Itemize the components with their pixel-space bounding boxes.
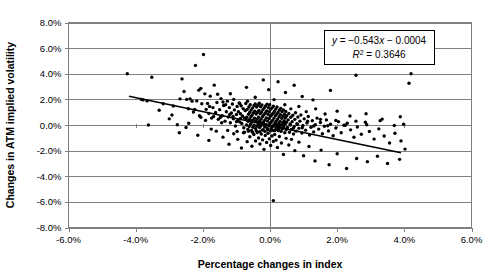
data-point bbox=[226, 99, 229, 102]
data-point bbox=[325, 118, 328, 121]
data-point bbox=[204, 108, 207, 111]
data-point bbox=[368, 130, 371, 133]
r-squared-symbol: R bbox=[352, 49, 359, 60]
x-tick-label-2: -2.0% bbox=[190, 234, 215, 245]
equation-intercept: − 0.0004 bbox=[384, 35, 426, 46]
data-point bbox=[198, 114, 201, 117]
data-point bbox=[293, 149, 296, 152]
data-point bbox=[319, 121, 322, 124]
data-point bbox=[299, 113, 302, 116]
data-point bbox=[288, 123, 291, 126]
data-point bbox=[224, 103, 227, 106]
x-axis-title: Percentage changes in index bbox=[198, 258, 343, 270]
data-point bbox=[238, 102, 241, 105]
data-point bbox=[212, 115, 215, 118]
data-point bbox=[233, 108, 236, 111]
data-point bbox=[282, 153, 285, 156]
y-tick-label-3: 2.0% bbox=[40, 94, 62, 105]
data-point bbox=[286, 118, 289, 121]
data-point bbox=[297, 105, 300, 108]
data-point bbox=[327, 163, 330, 166]
data-point bbox=[345, 167, 348, 170]
x-tick-label-1: -4.0% bbox=[123, 234, 148, 245]
data-point bbox=[264, 134, 267, 137]
data-point bbox=[245, 140, 248, 143]
y-tick-label-6: -4.0% bbox=[37, 171, 62, 182]
data-point bbox=[317, 127, 320, 130]
data-point bbox=[354, 119, 357, 122]
data-point bbox=[335, 109, 338, 112]
data-point bbox=[250, 145, 253, 148]
data-point bbox=[219, 116, 222, 119]
data-point bbox=[226, 129, 229, 132]
data-point bbox=[220, 121, 223, 124]
y-tick-label-0: 8.0% bbox=[40, 17, 62, 28]
data-point bbox=[289, 107, 292, 110]
data-point bbox=[202, 53, 205, 56]
data-point bbox=[235, 120, 238, 123]
data-point bbox=[180, 77, 183, 80]
equation-annotation-box: y = −0.543x − 0.0004 R2 = 0.3646 bbox=[324, 30, 434, 64]
data-point bbox=[301, 126, 304, 129]
data-point bbox=[382, 134, 385, 137]
data-point bbox=[229, 92, 232, 95]
data-point bbox=[292, 132, 295, 135]
data-point bbox=[303, 117, 306, 120]
data-point bbox=[380, 117, 383, 120]
data-point bbox=[305, 110, 308, 113]
data-point bbox=[242, 126, 245, 129]
data-point bbox=[319, 118, 322, 121]
data-point bbox=[272, 105, 275, 108]
data-point bbox=[272, 98, 275, 101]
data-point bbox=[245, 86, 248, 89]
data-point bbox=[240, 122, 243, 125]
y-tick-label-8: -8.0% bbox=[37, 222, 62, 233]
data-point bbox=[301, 95, 304, 98]
data-point bbox=[272, 199, 275, 202]
data-point bbox=[242, 131, 245, 134]
data-point bbox=[287, 143, 290, 146]
data-point bbox=[236, 138, 239, 141]
data-point bbox=[296, 115, 299, 118]
data-point bbox=[334, 126, 337, 129]
data-point bbox=[288, 130, 291, 133]
data-point bbox=[213, 83, 216, 86]
data-point bbox=[293, 118, 296, 121]
data-point bbox=[168, 117, 171, 120]
data-point bbox=[190, 99, 193, 102]
data-point bbox=[228, 113, 231, 116]
data-point bbox=[273, 133, 276, 136]
data-point bbox=[194, 64, 197, 67]
data-point bbox=[302, 154, 305, 157]
data-point bbox=[393, 132, 396, 135]
r-squared-value: = 0.3646 bbox=[364, 49, 406, 60]
data-point bbox=[200, 102, 203, 105]
y-tick-label-5: -2.0% bbox=[37, 145, 62, 156]
data-point bbox=[218, 108, 221, 111]
data-point bbox=[254, 96, 257, 99]
data-point bbox=[398, 158, 401, 161]
data-point bbox=[248, 103, 251, 106]
data-point bbox=[247, 129, 250, 132]
data-point bbox=[203, 92, 206, 95]
data-point bbox=[176, 123, 179, 126]
data-point bbox=[306, 119, 309, 122]
data-point bbox=[311, 119, 314, 122]
data-point bbox=[393, 124, 396, 127]
data-point bbox=[364, 112, 367, 115]
data-point bbox=[147, 123, 150, 126]
data-point bbox=[284, 110, 287, 113]
data-point bbox=[292, 126, 295, 129]
data-point bbox=[251, 130, 254, 133]
data-point bbox=[399, 115, 402, 118]
data-point bbox=[290, 138, 293, 141]
data-point bbox=[402, 123, 405, 126]
data-point bbox=[240, 146, 243, 149]
x-tick-label-0: -6.0% bbox=[56, 234, 81, 245]
data-point bbox=[340, 131, 343, 134]
data-point bbox=[274, 138, 277, 141]
data-point bbox=[291, 114, 294, 117]
data-point bbox=[184, 126, 187, 129]
scatter-points bbox=[126, 53, 413, 202]
data-point bbox=[331, 134, 334, 137]
